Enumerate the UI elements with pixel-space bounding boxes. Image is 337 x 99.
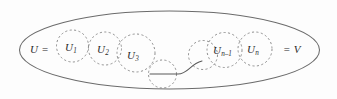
subset-label-u1-base: U — [65, 41, 73, 53]
subset-label-u1-subscript: 1 — [73, 47, 77, 55]
outer-left-equals: = — [41, 43, 49, 55]
subset-label-u2-subscript: 2 — [105, 49, 109, 57]
subset-label-un-minus-1: Un–1 — [213, 45, 232, 56]
subset-label-u2-base: U — [97, 43, 105, 55]
subset-label-u2: U2 — [97, 44, 109, 55]
subset-label-u3-base: U — [127, 49, 135, 61]
subset-label-u3: U3 — [127, 50, 139, 61]
subset-label-u3-subscript: 3 — [135, 55, 139, 63]
subset-label-un-minus-1-subscript: n–1 — [221, 50, 232, 58]
filtration-chain-figure: U= U1 U2 U3 Un–1 Un =V — [0, 0, 337, 99]
subset-label-un-base: U — [247, 43, 255, 55]
outer-right-symbol: V — [294, 43, 301, 55]
ellipsis-connector-curve — [150, 61, 202, 74]
outer-left-symbol: U — [30, 43, 38, 55]
outer-left-label: U= — [30, 44, 49, 55]
subset-label-un: Un — [247, 44, 259, 55]
subset-label-un-minus-1-base: U — [213, 44, 221, 56]
subset-label-un-subscript: n — [255, 49, 259, 57]
outer-right-equals: = — [283, 43, 291, 55]
subset-label-u1: U1 — [65, 42, 77, 53]
outer-right-label: =V — [283, 44, 301, 55]
